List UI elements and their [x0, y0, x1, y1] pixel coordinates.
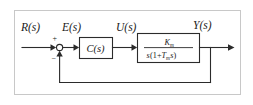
block-diagram-canvas: R(s) E(s) U(s) Y(s) + − C(s) Km s(1+Tms) — [0, 0, 253, 105]
summing-junction — [57, 44, 63, 50]
plant-denominator: s(1+Tms) — [147, 51, 177, 61]
block-diagram-svg: R(s) E(s) U(s) Y(s) + − C(s) Km s(1+Tms) — [0, 0, 253, 105]
label-reference-signal: R(s) — [20, 21, 40, 34]
summing-junction-minus-sign: − — [52, 54, 57, 63]
summing-junction-plus-sign: + — [53, 34, 58, 43]
plant-numerator-subscript: m — [170, 42, 174, 48]
label-error-signal: E(s) — [61, 21, 81, 34]
label-output-signal: Y(s) — [193, 19, 212, 32]
denominator-close-paren: ) — [173, 51, 176, 60]
label-control-signal: U(s) — [116, 21, 137, 34]
controller-label: C(s) — [87, 43, 106, 55]
